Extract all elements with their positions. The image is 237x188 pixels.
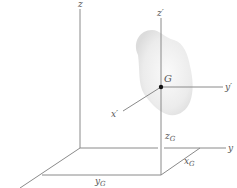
x-prime-label: x′ bbox=[111, 109, 118, 119]
center-of-mass-point bbox=[159, 85, 163, 89]
z-axis-label: z bbox=[77, 0, 83, 9]
z-prime-label: z′ bbox=[156, 8, 164, 18]
zG-label: zG bbox=[164, 131, 176, 143]
y-axis-label: y bbox=[227, 143, 234, 153]
x-axis bbox=[20, 148, 80, 188]
G-label: G bbox=[164, 73, 172, 84]
y-prime-label: y′ bbox=[224, 82, 232, 92]
yG-label: yG bbox=[94, 176, 106, 188]
coordinate-diagram: z z′ G y′ x′ y zG xG yG bbox=[0, 0, 237, 188]
xG-label: xG bbox=[184, 156, 195, 168]
